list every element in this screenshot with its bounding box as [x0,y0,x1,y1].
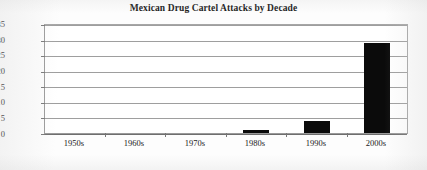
gridline-20 [45,72,407,73]
y-axis-label-30: 30 [0,36,5,44]
y-axis-label-35: 35 [0,20,5,28]
bar-1990s[interactable] [304,121,330,133]
x-axis-label-2000s: 2000s [346,139,406,148]
y-axis-label-25: 25 [0,51,5,59]
x-tick-5 [347,133,348,137]
y-axis-label-0: 0 [0,130,5,138]
x-tick-4 [286,133,287,137]
x-tick-2 [165,133,166,137]
gridline-5 [45,118,407,119]
gridline-25 [45,56,407,57]
y-axis-label-10: 10 [0,98,5,106]
plot-area [44,24,408,134]
bar-1980s[interactable] [243,130,269,133]
x-axis-label-1960s: 1960s [104,139,164,148]
x-tick-1 [105,133,106,137]
y-tick-0 [41,134,45,135]
y-tick-35 [41,25,45,26]
x-axis-label-1990s: 1990s [286,139,346,148]
gridline-15 [45,87,407,88]
y-tick-25 [41,56,45,57]
bar-chart-figure: Mexican Drug Cartel Attacks by Decade 35… [0,0,427,170]
x-tick-3 [226,133,227,137]
x-axis-label-1950s: 1950s [44,139,104,148]
gridline-35 [45,25,407,26]
gridline-30 [45,41,407,42]
x-axis-label-1980s: 1980s [225,139,285,148]
y-axis-label-15: 15 [0,83,5,91]
y-tick-10 [41,103,45,104]
y-tick-30 [41,41,45,42]
x-axis-label-1970s: 1970s [165,139,225,148]
y-axis-label-20: 20 [0,67,5,75]
chart-title: Mexican Drug Cartel Attacks by Decade [0,3,427,13]
y-axis-label-5: 5 [0,114,5,122]
y-tick-20 [41,72,45,73]
bar-2000s[interactable] [364,43,390,133]
gridline-10 [45,103,407,104]
y-tick-15 [41,87,45,88]
y-tick-5 [41,118,45,119]
